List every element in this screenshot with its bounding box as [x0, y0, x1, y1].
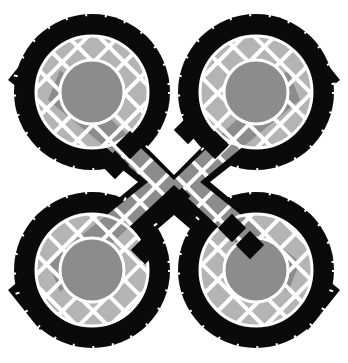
mosaic-image: [0, 0, 348, 363]
mosaic-knot-graphic: [0, 0, 348, 363]
inner-tiles: [36, 36, 312, 326]
